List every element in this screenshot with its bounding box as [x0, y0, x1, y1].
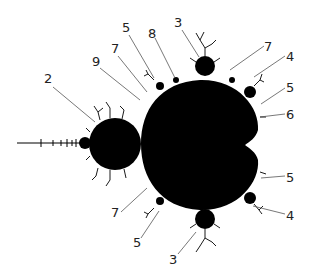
- mandelbrot-set: [17, 32, 266, 252]
- label-period-7-upper-left: 7: [111, 42, 119, 55]
- label-period-3-top: 3: [174, 16, 182, 29]
- main-cardioid: [141, 80, 258, 210]
- label-period-6: 6: [286, 108, 294, 121]
- label-period-4-upper: 4: [286, 50, 294, 63]
- period-3-bulb-bottom-shape: [195, 209, 215, 229]
- label-period-7-lower-left: 7: [111, 206, 119, 219]
- mandelbrot-set-graphic: [0, 0, 309, 275]
- label-period-5-upper-left: 5: [122, 21, 130, 34]
- label-period-7-upper-right: 7: [264, 40, 272, 53]
- label-period-8: 8: [148, 27, 156, 40]
- period-3-bulb-top-shape: [195, 56, 215, 76]
- label-period-5-right-lower: 5: [286, 171, 294, 184]
- label-period-9: 9: [92, 55, 100, 68]
- label-period-3-bottom: 3: [169, 253, 177, 266]
- label-period-5-right-upper: 5: [286, 81, 294, 94]
- period-2-bulb-shape: [89, 118, 141, 170]
- label-period-5-lower-left: 5: [133, 236, 141, 249]
- mandelbrot-diagram: 2 9 7 5 8 3 7 4 5 6 5 4 7 5 3: [0, 0, 309, 275]
- label-period-2: 2: [44, 72, 52, 85]
- label-period-4-lower: 4: [286, 209, 294, 222]
